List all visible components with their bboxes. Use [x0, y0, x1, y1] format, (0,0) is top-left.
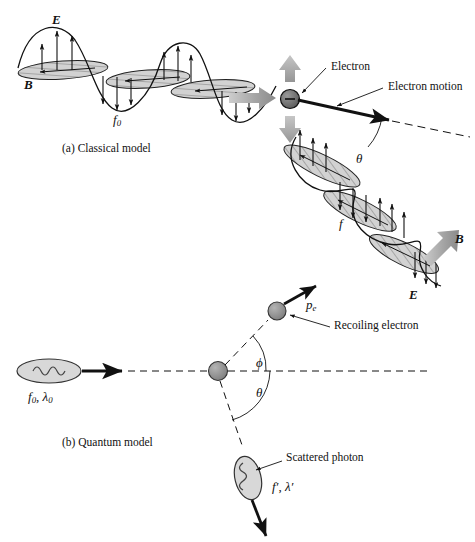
scattered-photon-arrow [252, 500, 266, 536]
recoiling-electron-label: Recoiling electron [334, 320, 419, 332]
label-leaders [302, 68, 383, 106]
electron-particle [281, 90, 300, 109]
b-field-label-scattered: B [455, 232, 464, 245]
scatter-angle-arc-a [368, 117, 382, 147]
theta-label-b: θ [256, 386, 262, 399]
scattered-frequency-label: f [339, 217, 343, 230]
e-field-label-incident: E [52, 13, 61, 26]
caption-classical-model: (a) Classical model [62, 143, 151, 155]
recoil-momentum-label: pe [306, 298, 316, 313]
scattered-photon-ellipse [230, 454, 266, 503]
magnetic-field-lobes [17, 58, 255, 101]
theta-arc [232, 371, 270, 420]
angle-arcs-b [232, 336, 270, 420]
incident-wave-group [17, 27, 276, 122]
scattered-direction-arrow [423, 230, 459, 266]
b-field-label-incident: B [24, 78, 33, 91]
caption-quantum-model: (b) Quantum model [62, 437, 153, 449]
electron-motion-label: Electron motion [388, 81, 462, 93]
scattered-photon-group [220, 381, 282, 536]
phi-label: ϕ [256, 356, 263, 369]
recoil-label-leader [290, 315, 330, 327]
e-field-label-scattered: E [409, 288, 418, 301]
scattered-photon-values: f′, λ′ [272, 480, 293, 493]
stationary-electron [209, 362, 228, 381]
scattered-photon-label-leader [256, 461, 282, 470]
recoiling-electron-particle [268, 302, 286, 320]
electron-label: Electron [331, 61, 370, 73]
incident-photon [17, 359, 81, 383]
incident-photon-label: f0, λ0 [28, 390, 53, 405]
electron-motion-arrow [298, 100, 470, 137]
scattered-photon-label: Scattered photon [286, 452, 364, 464]
theta-label-a: θ [356, 152, 362, 165]
incident-frequency-label: f0 [113, 113, 121, 128]
